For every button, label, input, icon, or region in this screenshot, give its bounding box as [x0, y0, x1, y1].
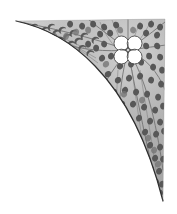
four-petal-rosette-icon [114, 36, 142, 64]
rosette-petal-top-left [114, 36, 129, 51]
rosette-petal-bottom-right [127, 49, 142, 64]
corner-ornament-illustration [0, 0, 177, 214]
rosette-petal-bottom-left [114, 49, 129, 64]
ornament-canvas [0, 0, 177, 214]
rosette-petal-top-right [127, 36, 142, 51]
rosette-center-dot [127, 49, 130, 52]
